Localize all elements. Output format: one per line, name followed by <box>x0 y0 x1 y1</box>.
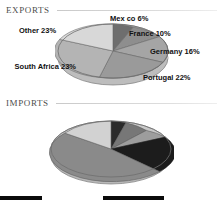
exports-label-portugal: Portugal 22% <box>143 73 191 82</box>
imports-chart-area: Belgium-Luxembourg 4% USA 6% Nigeria 8% … <box>0 93 221 190</box>
exports-label-south-africa: South Africa 23% <box>14 62 76 71</box>
exports-label-mexico: Mex co 6% <box>110 14 148 23</box>
exports-label-germany: Germany 16% <box>150 47 200 56</box>
imports-section: IMPORTS Belgium-Luxembourg 4% US <box>0 93 221 190</box>
page-bottom-artifacts <box>0 194 221 201</box>
bottom-black-bar-left <box>0 196 42 200</box>
imports-pie-chart <box>48 113 174 189</box>
exports-label-other: Other 23% <box>19 26 56 35</box>
bottom-black-bar-right <box>103 196 164 200</box>
exports-section: EXPORTS Mex co 6% Fr <box>0 0 221 93</box>
exports-label-france: France 10% <box>129 29 171 38</box>
exports-chart-area: Mex co 6% France 10% Germany 16% Portuga… <box>0 0 221 93</box>
